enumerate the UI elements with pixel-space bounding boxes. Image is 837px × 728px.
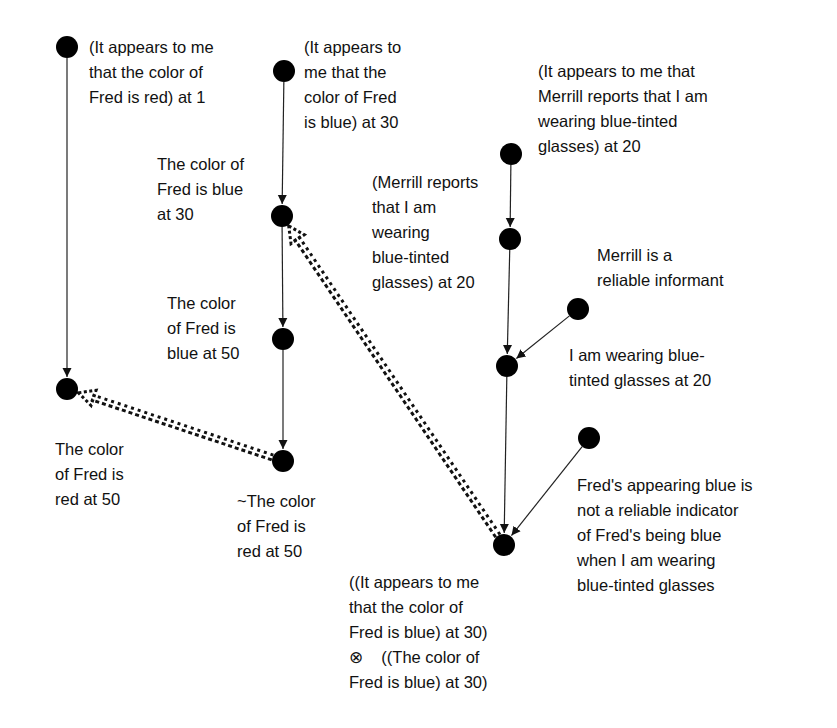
support-edge [516, 316, 569, 359]
node-label-H: (Merrill reports that I am wearing blue-… [372, 170, 478, 295]
node-K [578, 427, 600, 449]
support-edge [282, 82, 284, 204]
node-label-D: The color of Fred is blue at 30 [157, 152, 244, 227]
node-B [56, 378, 78, 400]
node-A [56, 36, 78, 58]
node-I [567, 298, 589, 320]
support-edge [282, 227, 283, 327]
node-H [499, 228, 521, 250]
node-label-G: (It appears to me that Merrill reports t… [538, 59, 708, 159]
node-label-B: The color of Fred is red at 50 [55, 437, 124, 512]
node-G [500, 143, 522, 165]
node-F [272, 450, 294, 472]
node-label-K: Fred's appearing blue is not a reliable … [577, 473, 753, 598]
node-label-E: The color of Fred is blue at 50 [167, 291, 239, 366]
node-label-F: ~The color of Fred is red at 50 [237, 489, 315, 564]
node-label-A: (It appears to me that the color of Fred… [89, 35, 214, 110]
node-C [273, 60, 295, 82]
support-edge [511, 447, 582, 536]
node-D [271, 205, 293, 227]
node-label-J: I am wearing blue- tinted glasses at 20 [569, 343, 711, 393]
node-label-C: (It appears to me that the color of Fred… [304, 35, 401, 135]
support-edge [504, 377, 507, 533]
node-E [272, 328, 294, 350]
node-J [496, 355, 518, 377]
node-L [493, 534, 515, 556]
support-edge [507, 250, 509, 354]
support-edge [510, 165, 511, 227]
node-label-L: ((It appears to me that the color of Fre… [349, 570, 487, 695]
node-label-I: Merrill is a reliable informant [597, 243, 724, 293]
